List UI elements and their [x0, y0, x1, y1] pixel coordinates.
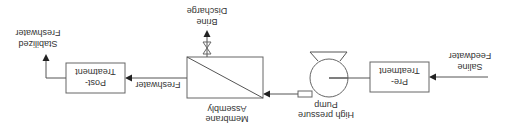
high-pressure-pump: High pressure Pump	[298, 52, 354, 120]
pump-nozzle-icon	[298, 91, 312, 97]
freshwater-flow: Freshwater	[125, 75, 187, 91]
product-arrow-icon	[43, 54, 50, 61]
posttreatment-label-line1: Post-	[85, 78, 106, 88]
pretreatment-label-line2: Treatment	[379, 66, 420, 76]
feed-arrow-icon	[429, 74, 436, 81]
membrane-assembly: Membrane Assembly	[187, 57, 263, 124]
brine-label-line1: Brine	[196, 17, 217, 27]
pump-label-line2: Pump	[314, 100, 338, 110]
membrane-label-line2: Assembly	[207, 104, 247, 114]
product-label-line1: Stabilized	[18, 39, 57, 49]
pump-base-icon	[310, 52, 347, 61]
pump-to-membrane-arrow-icon	[263, 91, 270, 98]
ro-desalination-diagram: Saline Feedwater Pre- Treatment High pre…	[0, 0, 510, 136]
brine-arrow-icon	[204, 30, 211, 37]
pretreatment-block: Pre- Treatment	[370, 62, 429, 92]
membrane-label-line1: Membrane	[205, 114, 248, 124]
pump-label-line1: High pressure	[298, 110, 354, 120]
brine-discharge: Brine Discharge	[187, 6, 228, 57]
feed-input: Saline Feedwater	[429, 51, 491, 81]
product-label-line2: Freshwater	[15, 28, 60, 38]
feed-label-line2: Feedwater	[449, 51, 492, 61]
pretreatment-label-line1: Pre-	[391, 77, 408, 87]
freshwater-label: Freshwater	[135, 80, 180, 90]
product-output: Stabilized Freshwater	[15, 28, 66, 78]
posttreatment-block: Post- Treatment	[66, 63, 125, 93]
freshwater-arrow-icon	[125, 75, 132, 82]
feed-label-line1: Saline	[457, 62, 482, 72]
posttreatment-label-line2: Treatment	[75, 67, 116, 77]
brine-label-line2: Discharge	[187, 6, 228, 16]
product-line	[46, 60, 66, 78]
